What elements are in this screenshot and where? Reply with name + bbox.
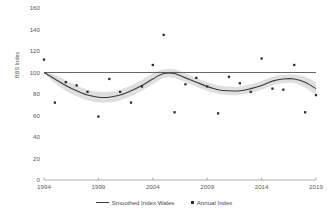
annual-index-point [108,78,110,80]
confidence-band-group [44,69,316,103]
annual-index-point [54,101,56,103]
x-tick-1999: 1999 [92,184,106,190]
annual-index-point [119,91,121,93]
legend-item-annual: Annual Index [191,199,232,206]
annual-index-point [282,89,284,91]
annual-index-point [228,76,230,78]
chart-legend: Smoothed Index Wales Annual Index [0,199,328,206]
annual-index-point [315,94,317,96]
annual-index-point [206,85,208,87]
annual-index-point [304,111,306,113]
annual-index-point [250,91,252,93]
y-tick-100: 100 [30,70,40,76]
x-axis-tick-labels: 199419992004200920142019 [0,184,328,196]
annual-index-point [86,91,88,93]
x-tick-2019: 2019 [309,184,323,190]
y-tick-20: 20 [33,156,40,162]
y-tick-160: 160 [30,5,40,11]
confidence-band [44,69,316,103]
legend-label-annual: Annual Index [197,199,233,206]
annual-index-point [152,64,154,66]
annual-index-point [43,58,45,60]
y-tick-60: 60 [33,113,40,119]
x-tick-2014: 2014 [255,184,269,190]
x-tick-1994: 1994 [37,184,51,190]
annual-index-point [97,115,99,117]
plot-area [44,8,316,180]
y-tick-80: 80 [33,91,40,97]
annual-index-point [271,87,273,89]
y-tick-120: 120 [30,48,40,54]
annual-index-point [184,83,186,85]
y-tick-40: 40 [33,134,40,140]
plot-svg [44,8,316,180]
annual-index-point [195,77,197,79]
annual-index-point [293,64,295,66]
annual-index-point [130,101,132,103]
legend-dot-icon [191,201,193,203]
annual-index-point [141,85,143,87]
annual-index-point [75,84,77,86]
legend-item-smoothed: Smoothed Index Wales [96,199,175,206]
legend-label-smoothed: Smoothed Index Wales [112,199,175,206]
legend-line-icon [96,202,109,203]
bbs-index-chart: BBS Index 160140120100806040200 19941999… [0,0,328,219]
annual-index-point [260,57,262,59]
x-tick-2004: 2004 [146,184,160,190]
y-tick-140: 140 [30,27,40,33]
annual-index-point [65,81,67,83]
annual-index-point [173,111,175,113]
annual-index-point [217,112,219,114]
x-tick-2009: 2009 [200,184,214,190]
x-axis [44,178,316,181]
annual-index-point [163,34,165,36]
annual-index-point [239,82,241,84]
